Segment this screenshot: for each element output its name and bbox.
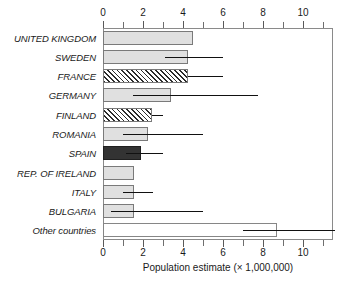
category-label: SPAIN (69, 148, 96, 159)
axis-tick-label: 4 (180, 247, 186, 258)
axis-tick-label: 10 (297, 7, 308, 18)
error-bar (123, 192, 153, 193)
error-bar (152, 115, 163, 116)
axis-tick (143, 240, 144, 247)
error-bar (123, 134, 203, 135)
axis-tick (263, 21, 264, 28)
error-bar (126, 153, 163, 154)
axis-tick (143, 21, 144, 28)
axis-tick (323, 240, 324, 246)
axis-tick-label: 8 (260, 7, 266, 18)
axis-tick-label: 0 (100, 247, 106, 258)
axis-tick (223, 21, 224, 28)
axis-tick-label: 8 (260, 247, 266, 258)
axis-tick (103, 240, 104, 247)
axis-tick (303, 21, 304, 28)
category-label: ROMANIA (52, 129, 96, 140)
axis-tick-label: 10 (297, 247, 308, 258)
error-bar (243, 230, 335, 231)
category-label: ITALY (72, 186, 96, 197)
error-bar (165, 57, 223, 58)
x-axis-title: Population estimate (× 1,000,000) (103, 262, 333, 273)
axis-tick (303, 240, 304, 247)
axis-tick-label: 6 (220, 7, 226, 18)
bar (103, 108, 152, 122)
axis-tick-label: 4 (180, 7, 186, 18)
category-axis-labels: UNITED KINGDOMSWEDENFRANCEGERMANYFINLAND… (0, 28, 100, 240)
category-label: Other countries (33, 225, 96, 236)
bar (103, 31, 193, 45)
axis-tick-label: 6 (220, 247, 226, 258)
category-label: SWEDEN (55, 51, 96, 62)
error-bar (133, 95, 258, 96)
axis-tick (243, 240, 244, 246)
error-bar (111, 211, 203, 212)
axis-tick (263, 240, 264, 247)
axis-tick (183, 240, 184, 247)
axis-tick (223, 240, 224, 247)
population-bar-chart: 0246810 0246810 UNITED KINGDOMSWEDENFRAN… (0, 0, 351, 286)
axis-tick-label: 0 (100, 7, 106, 18)
bars-layer (103, 28, 333, 240)
axis-tick-label: 2 (140, 247, 146, 258)
category-label: BULGARIA (49, 206, 96, 217)
axis-tick (183, 21, 184, 28)
axis-tick (103, 21, 104, 28)
axis-tick (283, 240, 284, 246)
category-label: UNITED KINGDOM (14, 32, 96, 43)
bar (103, 166, 134, 180)
axis-tick-label: 2 (140, 7, 146, 18)
category-label: FRANCE (58, 71, 96, 82)
axis-tick (163, 240, 164, 246)
axis-tick (123, 240, 124, 246)
bar (103, 69, 188, 83)
category-label: FINLAND (56, 109, 96, 120)
axis-tick (203, 240, 204, 246)
category-label: GERMANY (49, 90, 96, 101)
error-bar (188, 76, 223, 77)
category-label: REP. OF IRELAND (17, 167, 96, 178)
